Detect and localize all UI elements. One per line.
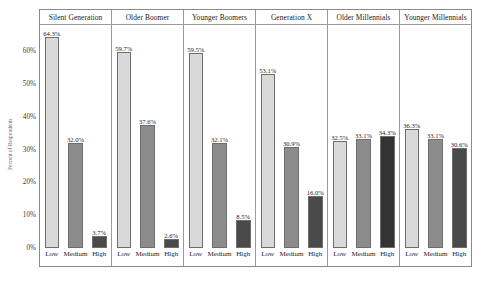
facet-plot-area: 36.3%33.1%30.6% bbox=[400, 25, 471, 248]
bar-group: 36.3%33.1%30.6% bbox=[400, 25, 471, 248]
bar-group: 53.1%30.9%16.0% bbox=[256, 25, 327, 248]
facet-plot-area: 53.1%30.9%16.0% bbox=[256, 25, 327, 248]
bar-value-label: 8.5% bbox=[236, 213, 250, 220]
x-axis-tick-label: Low bbox=[112, 250, 135, 258]
facet-panel-title: Older Boomer bbox=[126, 13, 170, 22]
bar-slot: 32.5% bbox=[328, 25, 352, 248]
facet-panel-body: 53.1%30.9%16.0%LowMediumHigh bbox=[256, 25, 327, 266]
bar-slot: 8.5% bbox=[231, 25, 255, 248]
x-axis-tick-label: Low bbox=[328, 250, 351, 258]
bar[interactable]: 2.6% bbox=[164, 239, 179, 248]
bar[interactable]: 32.1% bbox=[212, 143, 227, 248]
y-axis-tick: 60% bbox=[23, 47, 36, 55]
bar-value-label: 36.3% bbox=[403, 122, 420, 129]
bar-value-label: 16.0% bbox=[307, 189, 324, 196]
bar[interactable]: 33.1% bbox=[356, 139, 371, 248]
bar[interactable]: 8.5% bbox=[236, 220, 251, 248]
bar-value-label: 2.6% bbox=[164, 232, 178, 239]
bar[interactable]: 59.5% bbox=[189, 53, 204, 248]
bar[interactable]: 36.3% bbox=[405, 129, 420, 248]
bar-slot: 33.1% bbox=[352, 25, 376, 248]
x-axis-tick-label: High bbox=[376, 250, 399, 258]
facet-panel-body: 59.5%32.1%8.5%LowMediumHigh bbox=[184, 25, 255, 266]
facet-panel-header: Older Millennials bbox=[328, 10, 399, 25]
bar[interactable]: 32.0% bbox=[68, 143, 83, 248]
bar-group: 32.5%33.1%34.3% bbox=[328, 25, 399, 248]
bar[interactable]: 30.9% bbox=[284, 147, 299, 248]
bar-slot: 37.6% bbox=[136, 25, 160, 248]
y-axis-tick: 50% bbox=[23, 80, 36, 88]
bar[interactable]: 33.1% bbox=[428, 139, 443, 248]
facet-panel-header: Younger Boomers bbox=[184, 10, 255, 25]
bar-value-label: 33.1% bbox=[427, 132, 444, 139]
y-axis-tick: 40% bbox=[23, 113, 36, 121]
facet-panel-title: Silent Generation bbox=[49, 13, 103, 22]
bar-slot: 36.3% bbox=[400, 25, 424, 248]
faceted-bar-chart: Percent of Respondents 0%10%20%30%40%50%… bbox=[0, 0, 477, 287]
facet-panel: Older Millennials32.5%33.1%34.3%LowMediu… bbox=[328, 10, 400, 266]
bar-slot: 33.1% bbox=[424, 25, 448, 248]
bar-group: 59.5%32.1%8.5% bbox=[184, 25, 255, 248]
bar-value-label: 33.1% bbox=[355, 132, 372, 139]
bar-slot: 16.0% bbox=[303, 25, 327, 248]
x-axis-tick-label: Medium bbox=[135, 250, 159, 258]
bar-value-label: 53.1% bbox=[259, 67, 276, 74]
bar-slot: 59.7% bbox=[112, 25, 136, 248]
bar-value-label: 30.9% bbox=[283, 140, 300, 147]
bar[interactable]: 16.0% bbox=[308, 196, 323, 248]
facet-panel: Younger Boomers59.5%32.1%8.5%LowMediumHi… bbox=[184, 10, 256, 266]
y-axis-tick: 20% bbox=[23, 178, 36, 186]
x-axis-category-strip: LowMediumHigh bbox=[40, 248, 111, 266]
facet-panel-header: Silent Generation bbox=[40, 10, 111, 25]
bar-slot: 34.3% bbox=[375, 25, 399, 248]
x-axis-category-strip: LowMediumHigh bbox=[184, 248, 255, 266]
bar-value-label: 64.3% bbox=[43, 30, 60, 37]
bar-value-label: 59.7% bbox=[115, 45, 132, 52]
facet-panel: Silent Generation64.3%32.0%3.7%LowMedium… bbox=[40, 10, 112, 266]
x-axis-tick-label: High bbox=[304, 250, 327, 258]
bar-slot: 2.6% bbox=[159, 25, 183, 248]
bar[interactable]: 3.7% bbox=[92, 236, 107, 248]
bar-value-label: 3.7% bbox=[92, 229, 106, 236]
facet-panel-body: 36.3%33.1%30.6%LowMediumHigh bbox=[400, 25, 471, 266]
bar[interactable]: 64.3% bbox=[45, 37, 60, 248]
x-axis-tick-label: High bbox=[88, 250, 111, 258]
x-axis-category-strip: LowMediumHigh bbox=[328, 248, 399, 266]
bar[interactable]: 37.6% bbox=[140, 125, 155, 248]
facet-panel-header: Younger Millennials bbox=[400, 10, 471, 25]
bar[interactable]: 53.1% bbox=[261, 74, 276, 248]
facet-panel: Younger Millennials36.3%33.1%30.6%LowMed… bbox=[400, 10, 471, 266]
y-axis-tick-labels: 0%10%20%30%40%50%60% bbox=[14, 20, 38, 266]
x-axis-tick-label: Medium bbox=[423, 250, 447, 258]
x-axis-tick-label: High bbox=[160, 250, 183, 258]
x-axis-tick-label: Low bbox=[400, 250, 423, 258]
facet-plot-area: 64.3%32.0%3.7% bbox=[40, 25, 111, 248]
bar-value-label: 32.1% bbox=[211, 136, 228, 143]
bar-value-label: 30.6% bbox=[451, 141, 468, 148]
bar[interactable]: 32.5% bbox=[333, 141, 348, 248]
y-axis-tick: 0% bbox=[26, 244, 36, 252]
facet-panel-title: Younger Boomers bbox=[192, 13, 247, 22]
bar-slot: 32.0% bbox=[64, 25, 88, 248]
bar-slot: 30.6% bbox=[447, 25, 471, 248]
x-axis-tick-label: Low bbox=[256, 250, 279, 258]
bar-slot: 32.1% bbox=[208, 25, 232, 248]
bar[interactable]: 34.3% bbox=[380, 136, 395, 248]
facet-panel-body: 59.7%37.6%2.6%LowMediumHigh bbox=[112, 25, 183, 266]
bar-value-label: 37.6% bbox=[139, 118, 156, 125]
x-axis-tick-label: Medium bbox=[63, 250, 87, 258]
y-axis-tick: 10% bbox=[23, 211, 36, 219]
bar[interactable]: 30.6% bbox=[452, 148, 467, 248]
facet-panel-title: Younger Millennials bbox=[404, 13, 467, 22]
x-axis-tick-label: Low bbox=[40, 250, 63, 258]
bar-group: 64.3%32.0%3.7% bbox=[40, 25, 111, 248]
bar-value-label: 32.0% bbox=[67, 136, 84, 143]
facet-plot-area: 32.5%33.1%34.3% bbox=[328, 25, 399, 248]
bar-group: 59.7%37.6%2.6% bbox=[112, 25, 183, 248]
bar-slot: 64.3% bbox=[40, 25, 64, 248]
x-axis-tick-label: Medium bbox=[279, 250, 303, 258]
bar-slot: 3.7% bbox=[87, 25, 111, 248]
x-axis-category-strip: LowMediumHigh bbox=[400, 248, 471, 266]
bar[interactable]: 59.7% bbox=[117, 52, 132, 248]
facet-plot-area: 59.7%37.6%2.6% bbox=[112, 25, 183, 248]
